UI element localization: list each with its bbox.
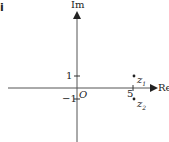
z2-sub: 2: [142, 104, 146, 111]
point-label-z1: z1: [137, 75, 146, 87]
imaginary-axis-label: Im: [71, 0, 84, 10]
tick-label-im-1: 1: [66, 71, 72, 81]
tick-label-re-5: 5: [127, 89, 133, 99]
origin-label: O: [79, 90, 87, 100]
real-axis-arrow-icon: [150, 84, 158, 92]
imaginary-axis-arrow-icon: [73, 11, 81, 19]
z1-sub: 1: [142, 80, 146, 87]
tick-label-im-neg1: −1: [62, 94, 77, 104]
point-z1: [133, 75, 136, 78]
real-axis-label: Re: [158, 83, 169, 93]
point-label-z2: z2: [137, 99, 146, 111]
argand-diagram: [0, 0, 169, 142]
